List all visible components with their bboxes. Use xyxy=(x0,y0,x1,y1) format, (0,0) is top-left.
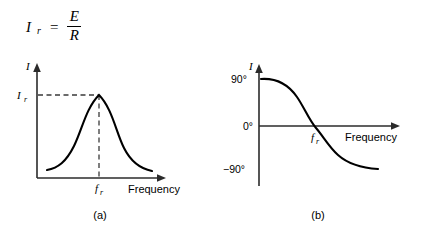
panel-b-x-axis-arrow xyxy=(391,122,400,130)
panel-b-y-tick-0: 0° xyxy=(243,120,253,132)
panel-b-y-tick-90: 90° xyxy=(231,73,247,85)
panel-a-y-axis-label: I xyxy=(25,60,31,72)
panel-b-x-tick-label-subscript: r xyxy=(316,137,320,146)
panel-a-caption: (a) xyxy=(93,209,106,221)
figure-resonance-curves: I I r f r Frequency (a) I 90° xyxy=(0,0,421,228)
panel-a-y-axis-arrow xyxy=(33,63,41,72)
panel-b-y-axis-label: I xyxy=(248,60,254,72)
panel-a-x-tick-label-subscript: r xyxy=(100,188,104,197)
panel-b-y-axis-arrow xyxy=(255,64,263,73)
panel-b-y-tick-neg90: −90° xyxy=(223,163,245,175)
panel-b-caption: (b) xyxy=(311,209,324,221)
panel-b-x-axis-label: Frequency xyxy=(345,131,397,143)
panel-a-x-axis-arrow xyxy=(157,174,166,182)
panel-a-x-axis-label: Frequency xyxy=(128,183,180,195)
panel-a: I I r f r Frequency (a) xyxy=(16,60,180,221)
panel-a-y-tick-label-subscript: r xyxy=(24,95,28,104)
panel-b-phase-curve xyxy=(261,79,378,169)
panel-a-y-tick-label: I xyxy=(16,89,22,101)
panel-b: I 90° 0° −90° f r Frequency (b) xyxy=(223,60,400,221)
